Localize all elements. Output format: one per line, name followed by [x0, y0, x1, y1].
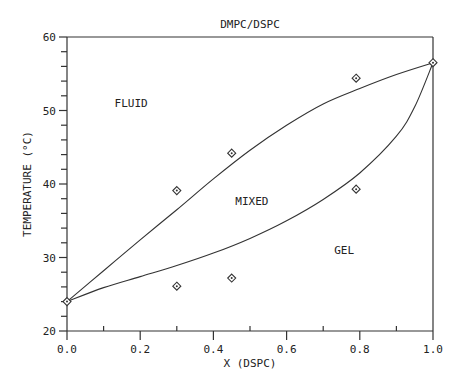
diamond-marker-icon	[228, 274, 236, 282]
x-tick-label: 0.0	[57, 343, 77, 356]
y-tick-label: 20	[43, 325, 56, 338]
y-tick-label: 40	[43, 178, 56, 191]
data-point-markers	[63, 59, 437, 306]
x-axis-label: X (DSPC)	[224, 357, 277, 370]
y-axis-ticks: 2030405060	[43, 31, 67, 338]
diamond-marker-icon	[173, 187, 181, 195]
y-tick-label: 50	[43, 105, 56, 118]
diamond-marker-icon	[352, 74, 360, 82]
phase-diagram-chart: DMPC/DSPC 2030405060 0.00.20.40.60.81.0 …	[0, 0, 464, 382]
diamond-marker-icon	[352, 185, 360, 193]
region-labels: FLUIDMIXEDGEL	[115, 97, 355, 257]
region-label-mixed: MIXED	[235, 195, 268, 208]
region-label-gel: GEL	[334, 244, 354, 257]
x-tick-label: 0.2	[130, 343, 150, 356]
y-axis-label: TEMPERATURE (°C)	[21, 131, 34, 237]
x-tick-label: 0.4	[203, 343, 223, 356]
diamond-marker-icon	[228, 149, 236, 157]
y-tick-label: 30	[43, 252, 56, 265]
region-label-fluid: FLUID	[115, 97, 148, 110]
x-tick-label: 0.6	[277, 343, 297, 356]
diamond-marker-icon	[173, 282, 181, 290]
x-tick-label: 0.8	[350, 343, 370, 356]
y-tick-label: 60	[43, 31, 56, 44]
x-tick-label: 1.0	[423, 343, 443, 356]
diamond-marker-icon	[429, 59, 437, 67]
chart-title: DMPC/DSPC	[220, 18, 280, 31]
